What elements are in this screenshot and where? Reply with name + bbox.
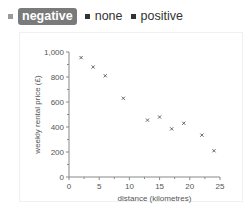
data-point [122,97,125,100]
data-point [146,119,149,122]
y-tick-label: 1,000 [44,48,65,57]
x-tick-label: 5 [97,182,102,191]
x-tick-label: 0 [67,182,72,191]
data-point [79,56,82,59]
data-point [200,134,203,137]
y-tick-label: 800 [51,73,65,82]
data-point [212,149,215,152]
data-point [104,74,107,77]
y-tick-label: 200 [51,148,65,157]
y-tick-label: 0 [60,173,65,182]
data-point [170,127,173,130]
x-tick-label: 15 [155,182,164,191]
y-tick-label: 600 [51,98,65,107]
x-tick-label: 20 [185,182,194,191]
y-axis-title: weekly rental price (£) [33,75,42,155]
scatter-chart: 02004006008001,0000510152025distance (ki… [0,0,251,218]
x-tick-label: 25 [216,182,225,191]
data-point [158,115,161,118]
data-point [182,122,185,125]
x-axis-title: distance (kilometres) [118,194,192,203]
x-tick-label: 10 [125,182,134,191]
data-point [92,65,95,68]
y-tick-label: 400 [51,123,65,132]
